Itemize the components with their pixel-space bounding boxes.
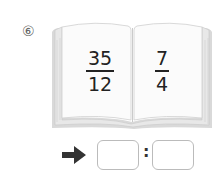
fraction-bar [86,70,114,72]
right-page-fraction: 7 4 [155,49,169,94]
answer-box-second[interactable] [152,140,194,170]
left-denominator: 12 [86,75,114,94]
right-numerator: 7 [155,49,169,68]
arrow-right-icon [62,146,86,164]
left-numerator: 35 [86,49,114,68]
fraction-bar [155,70,169,72]
ratio-colon: : [143,142,149,161]
answer-box-first[interactable] [97,140,139,170]
right-denominator: 4 [155,75,169,94]
left-page-fraction: 35 12 [86,49,114,94]
